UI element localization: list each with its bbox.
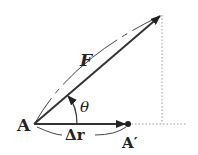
end-point-dot — [125, 121, 131, 127]
start-point-label: A — [16, 115, 31, 135]
displacement-bracket-arc — [37, 127, 62, 135]
work-diagram: F θ A Δr A′ — [0, 0, 198, 155]
force-label: F — [79, 50, 94, 70]
angle-arc — [68, 96, 77, 124]
displacement-label: Δr — [65, 126, 86, 144]
angle-label: θ — [80, 98, 89, 116]
force-vector-arrow — [34, 16, 160, 124]
end-point-label: A′ — [121, 134, 138, 152]
